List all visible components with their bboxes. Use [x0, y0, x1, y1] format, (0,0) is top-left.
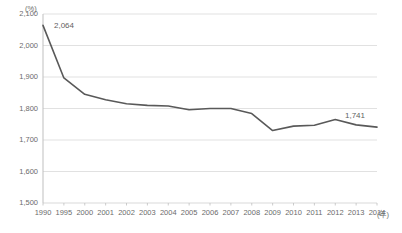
series-line: [43, 25, 377, 130]
plot-area: [0, 0, 402, 233]
line-chart: (%) (年) 2,1002,0001,9001,8001,7001,6001,…: [0, 0, 402, 233]
